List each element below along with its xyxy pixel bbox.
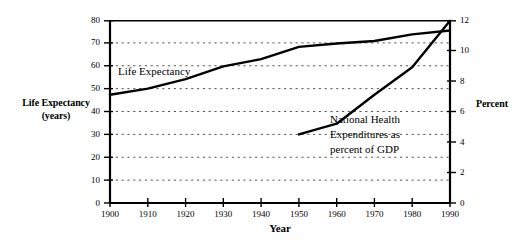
y-right-tick-2: 2: [460, 167, 482, 177]
x-tick-1960: 1960: [319, 209, 355, 219]
y-left-tick-20: 20: [78, 152, 100, 162]
y-left-tick-0: 0: [78, 198, 100, 208]
y-left-tick-50: 50: [78, 83, 100, 93]
annotation-nhe-line1: National Health: [330, 112, 400, 127]
y-right-tick-0: 0: [460, 198, 482, 208]
annotation-life-expectancy: Life Expectancy: [118, 64, 190, 79]
y-left-tick-40: 40: [78, 106, 100, 116]
y-right-tick-12: 12: [460, 15, 482, 25]
x-tick-1900: 1900: [92, 209, 128, 219]
x-tick-1980: 1980: [394, 209, 430, 219]
x-tick-1950: 1950: [281, 209, 317, 219]
y-left-tick-30: 30: [78, 129, 100, 139]
y-right-tick-8: 8: [460, 76, 482, 86]
x-tick-1920: 1920: [168, 209, 204, 219]
x-tick-1970: 1970: [356, 209, 392, 219]
x-tick-1910: 1910: [130, 209, 166, 219]
y-left-tick-60: 60: [78, 60, 100, 70]
annotation-national-health-expenditures: National Health Expenditures as percent …: [330, 112, 400, 157]
x-tick-1930: 1930: [205, 209, 241, 219]
y-left-tick-10: 10: [78, 175, 100, 185]
annotation-nhe-line3: percent of GDP: [330, 142, 400, 157]
chart-container: Life Expectancy (years) Percent Year 0 1…: [0, 0, 526, 244]
annotation-nhe-line2: Expenditures as: [330, 127, 400, 142]
x-tick-1940: 1940: [243, 209, 279, 219]
y-left-tick-70: 70: [78, 37, 100, 47]
y-right-tick-4: 4: [460, 137, 482, 147]
x-tick-1990: 1990: [432, 209, 468, 219]
y-left-tick-80: 80: [78, 15, 100, 25]
y-right-tick-10: 10: [460, 45, 482, 55]
x-axis-title: Year: [240, 222, 320, 235]
right-axis-title: Percent: [476, 97, 524, 110]
y-right-tick-6: 6: [460, 106, 482, 116]
